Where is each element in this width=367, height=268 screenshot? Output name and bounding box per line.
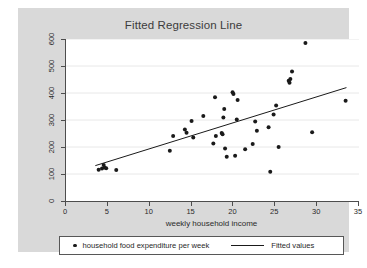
legend-line-marker-icon <box>231 245 264 246</box>
scatter-point <box>310 130 314 134</box>
x-axis-tick-label: 25 <box>262 207 286 216</box>
scatter-point <box>104 166 108 170</box>
scatter-point <box>222 107 226 111</box>
scatter-point <box>274 103 278 107</box>
legend-entry-fitted-line: Fitted values <box>231 241 314 250</box>
x-axis-tick-label: 0 <box>53 207 77 216</box>
scatter-point <box>277 145 281 149</box>
scatter-point <box>288 77 292 81</box>
chart-legend: household food expenditure per week Fitt… <box>59 236 344 255</box>
x-axis-tick-mark <box>191 202 192 206</box>
scatter-point <box>288 81 292 85</box>
y-axis-tick-label: 600 <box>47 28 57 50</box>
x-axis-tick-mark <box>316 202 317 206</box>
scatter-point <box>251 142 255 146</box>
scatter-point <box>253 120 257 124</box>
x-axis-tick-label: 10 <box>137 207 161 216</box>
figure-canvas: Fitted Regression Line 01002003004005006… <box>0 0 367 268</box>
scatter-point <box>344 99 348 103</box>
scatter-point <box>221 116 225 120</box>
y-axis-tick-label: 500 <box>47 55 57 77</box>
x-axis-title: weekly household income <box>65 219 358 228</box>
legend-entry-scatter: household food expenditure per week <box>73 241 209 250</box>
x-axis-tick-mark <box>358 202 359 206</box>
scatter-point <box>272 113 276 117</box>
scatter-point <box>225 155 229 159</box>
scatter-point <box>268 170 272 174</box>
scatter-point <box>221 132 225 136</box>
x-axis-tick-label: 20 <box>220 207 244 216</box>
scatter-point <box>231 92 235 96</box>
x-axis-tick-label: 15 <box>179 207 203 216</box>
scatter-point <box>267 125 271 129</box>
scatter-point <box>168 149 172 153</box>
x-axis-tick-label: 5 <box>95 207 119 216</box>
x-axis-tick-mark <box>65 202 66 206</box>
chart-title: Fitted Regression Line <box>18 19 349 31</box>
x-axis-tick-mark <box>107 202 108 206</box>
scatter-point <box>201 114 205 118</box>
x-axis-tick-mark <box>149 202 150 206</box>
scatter-point <box>290 69 294 73</box>
scatter-point <box>191 136 195 140</box>
x-axis-tick-mark <box>274 202 275 206</box>
scatter-point <box>243 147 247 151</box>
graph-panel: Fitted Regression Line 01002003004005006… <box>18 8 349 252</box>
scatter-point <box>236 98 240 102</box>
scatter-point <box>255 129 259 133</box>
y-axis-tick-label: 300 <box>47 109 57 131</box>
fitted-regression-line <box>95 88 346 166</box>
plot-svg <box>66 39 359 201</box>
scatter-point <box>190 119 194 123</box>
x-axis-tick-label: 35 <box>346 207 367 216</box>
scatter-point <box>171 134 175 138</box>
legend-label-fitted-line: Fitted values <box>271 241 314 250</box>
scatter-point <box>213 95 217 99</box>
scatter-point <box>214 134 218 138</box>
scatter-point <box>185 131 189 135</box>
scatter-point <box>114 168 118 172</box>
scatter-point <box>303 41 307 45</box>
y-axis-tick-label: 200 <box>47 136 57 158</box>
y-axis-tick-label: 100 <box>47 163 57 185</box>
scatter-point <box>211 141 215 145</box>
scatter-point <box>233 154 237 158</box>
legend-dot-marker-icon <box>73 244 77 248</box>
scatter-point <box>235 117 239 121</box>
y-axis-tick-label: 400 <box>47 82 57 104</box>
x-axis-tick-label: 30 <box>304 207 328 216</box>
x-axis-tick-mark <box>232 202 233 206</box>
legend-label-scatter: household food expenditure per week <box>83 241 210 250</box>
plot-region <box>65 39 359 202</box>
scatter-point <box>223 147 227 151</box>
